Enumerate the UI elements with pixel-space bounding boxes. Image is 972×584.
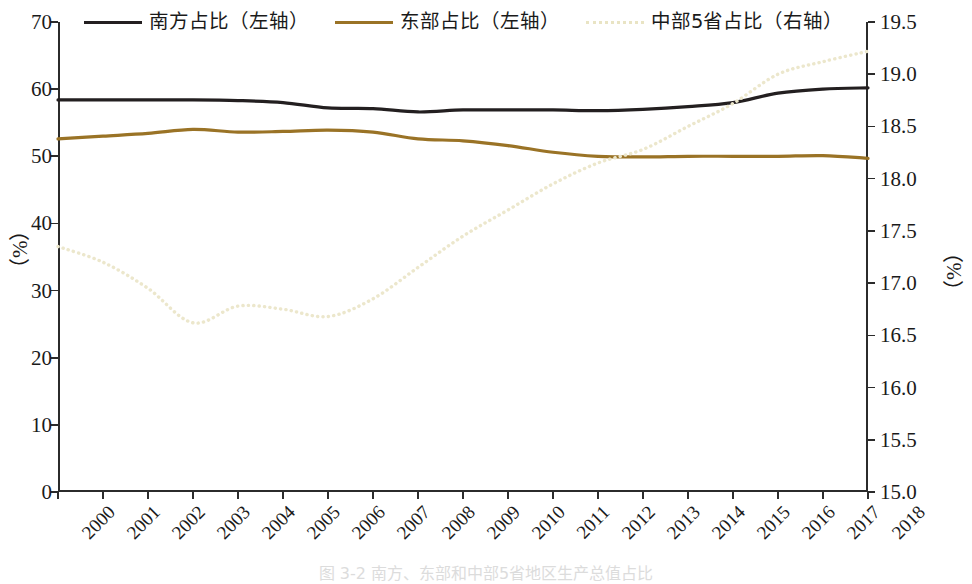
x-tick xyxy=(777,491,779,499)
left-tick-label: 70 xyxy=(31,12,52,33)
right-tick xyxy=(868,439,875,441)
x-tick-label: 2018 xyxy=(888,502,928,542)
right-tick xyxy=(868,491,875,493)
x-tick xyxy=(507,491,509,499)
x-tick-label: 2016 xyxy=(798,502,838,542)
right-tick xyxy=(868,21,875,23)
right-tick-label: 15.0 xyxy=(880,482,917,503)
left-tick-label: 40 xyxy=(31,213,52,234)
x-tick-label: 2015 xyxy=(753,502,793,542)
series-line xyxy=(58,51,868,323)
right-tick xyxy=(868,126,875,128)
x-tick-label: 2012 xyxy=(618,502,658,542)
series-line xyxy=(58,88,868,112)
left-tick xyxy=(51,357,58,359)
x-tick-label: 2011 xyxy=(573,502,613,542)
x-tick xyxy=(417,491,419,499)
right-tick xyxy=(868,335,875,337)
x-tick xyxy=(597,491,599,499)
x-tick xyxy=(57,491,59,499)
x-tick-label: 2010 xyxy=(528,502,568,542)
right-tick xyxy=(868,178,875,180)
x-tick-label: 2003 xyxy=(213,502,253,542)
right-axis-title: （%） xyxy=(944,242,965,302)
left-tick xyxy=(51,424,58,426)
x-tick xyxy=(552,491,554,499)
x-tick xyxy=(687,491,689,499)
left-tick xyxy=(51,21,58,23)
right-tick-label: 19.5 xyxy=(880,12,917,33)
right-tick-label: 17.0 xyxy=(880,273,917,294)
left-tick xyxy=(51,223,58,225)
x-tick-label: 2006 xyxy=(348,502,388,542)
x-tick xyxy=(822,491,824,499)
x-tick-label: 2002 xyxy=(168,502,208,542)
x-tick-label: 2007 xyxy=(393,502,433,542)
x-tick-label: 2017 xyxy=(843,502,883,542)
left-tick-label: 20 xyxy=(31,347,52,368)
right-tick xyxy=(868,282,875,284)
x-tick xyxy=(372,491,374,499)
right-tick xyxy=(868,387,875,389)
x-tick-label: 2004 xyxy=(258,502,298,542)
left-tick-label: 60 xyxy=(31,79,52,100)
x-tick-label: 2005 xyxy=(303,502,343,542)
left-axis-title: （%） xyxy=(10,220,31,280)
x-tick xyxy=(147,491,149,499)
left-tick-label: 0 xyxy=(42,482,53,503)
series-line xyxy=(58,129,868,158)
x-tick xyxy=(237,491,239,499)
plot-area: 01020304050607015.015.516.016.517.017.51… xyxy=(58,22,868,492)
x-tick xyxy=(867,491,869,499)
x-tick-label: 2001 xyxy=(123,502,163,542)
right-tick-label: 16.0 xyxy=(880,377,917,398)
left-tick-label: 50 xyxy=(31,146,52,167)
x-tick-label: 2013 xyxy=(663,502,703,542)
right-tick xyxy=(868,73,875,75)
x-tick-label: 2014 xyxy=(708,502,748,542)
right-tick-label: 15.5 xyxy=(880,429,917,450)
figure-caption: 图 3-2 南方、东部和中部5省地区生产总值占比 xyxy=(0,560,972,584)
right-tick-label: 16.5 xyxy=(880,325,917,346)
x-tick xyxy=(462,491,464,499)
x-tick xyxy=(642,491,644,499)
series-lines xyxy=(58,22,868,492)
right-tick xyxy=(868,230,875,232)
right-tick-label: 18.5 xyxy=(880,116,917,137)
x-tick-label: 2009 xyxy=(483,502,523,542)
x-tick xyxy=(327,491,329,499)
x-tick xyxy=(732,491,734,499)
x-tick xyxy=(282,491,284,499)
left-tick xyxy=(51,155,58,157)
left-tick-label: 30 xyxy=(31,280,52,301)
right-tick-label: 18.0 xyxy=(880,168,917,189)
x-tick xyxy=(192,491,194,499)
right-tick-label: 19.0 xyxy=(880,64,917,85)
left-tick-label: 10 xyxy=(31,414,52,435)
x-tick-label: 2000 xyxy=(78,502,118,542)
x-tick xyxy=(102,491,104,499)
left-tick xyxy=(51,88,58,90)
right-tick-label: 17.5 xyxy=(880,220,917,241)
left-tick xyxy=(51,290,58,292)
x-tick-label: 2008 xyxy=(438,502,478,542)
